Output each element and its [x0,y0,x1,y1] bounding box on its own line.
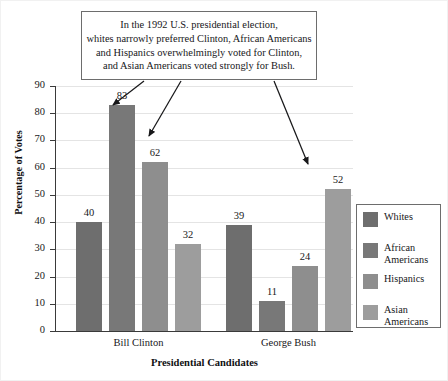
y-axis-tick-label: 20 [17,270,45,281]
legend-swatch [363,274,378,289]
legend-swatch [363,212,378,227]
gridline [56,140,353,141]
y-axis-tick [50,113,56,114]
gridline [56,168,353,169]
y-axis-line [55,86,56,332]
bar [259,301,285,331]
bar-value-label: 32 [171,229,205,240]
legend-label: Asian Americans [384,304,440,328]
y-axis-tick [50,304,56,305]
bar [175,244,201,331]
legend-label: African Americans [384,242,440,266]
bar [226,225,252,331]
y-axis-tick [50,249,56,250]
x-axis-title: Presidential Candidates [56,357,353,368]
y-axis-tick [50,140,56,141]
bar [76,222,102,331]
callout-line-2: whites narrowly preferred Clinton, Afric… [86,32,311,46]
category-label: Bill Clinton [84,337,194,348]
legend-swatch [363,243,378,258]
legend-item: Asian Americans [363,304,440,330]
bar [109,105,135,331]
gridline [56,86,353,87]
chart-legend: WhitesAfrican AmericansHispanicsAsian Am… [356,204,441,328]
legend-swatch [363,305,378,320]
legend-item: African Americans [363,242,440,268]
bar [142,162,168,331]
callout-line-4: and Asian Americans voted strongly for B… [103,59,295,73]
bar [292,266,318,331]
y-axis-tick [50,86,56,87]
y-axis-tick [50,331,56,332]
legend-label: Whites [384,211,413,223]
category-label: George Bush [234,337,344,348]
gridline [56,195,353,196]
y-axis-tick [50,195,56,196]
bar-value-label: 52 [321,174,355,185]
legend-item: Hispanics [363,273,440,299]
y-axis-tick-label: 90 [17,79,45,90]
y-axis-tick [50,168,56,169]
bar-value-label: 39 [222,210,256,221]
bar-value-label: 83 [105,90,139,101]
y-axis-tick-label: 30 [17,242,45,253]
y-axis-tick-label: 10 [17,297,45,308]
chart-figure: In the 1992 U.S. presidential election, … [0,0,448,381]
gridline [56,113,353,114]
y-axis-tick [50,222,56,223]
legend-item: Whites [363,211,440,237]
y-axis-tick-label: 0 [17,324,45,335]
callout-annotation-box: In the 1992 U.S. presidential election, … [81,11,317,80]
y-axis-title: Percentage of Votes [13,108,24,238]
bar-value-label: 11 [255,286,289,297]
x-axis-line [55,331,353,332]
legend-label: Hispanics [384,273,424,285]
bar-value-label: 24 [288,251,322,262]
y-axis-tick [50,277,56,278]
bar [325,189,351,331]
callout-line-3: and Hispanics overwhelmingly voted for C… [96,46,302,60]
bar-value-label: 40 [72,207,106,218]
callout-line-1: In the 1992 U.S. presidential election, [120,18,278,32]
bar-value-label: 62 [138,147,172,158]
